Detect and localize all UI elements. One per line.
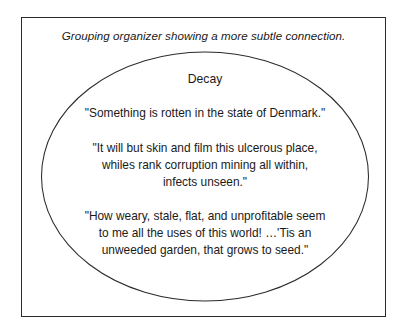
quote-line: "How weary, stale, flat, and unprofitabl… (42, 208, 368, 225)
figure-caption: Grouping organizer showing a more subtle… (21, 26, 386, 46)
quote-line: "Something is rotten in the state of Den… (42, 105, 368, 122)
quote-block-1: "Something is rotten in the state of Den… (42, 105, 368, 122)
quote-line: whiles rank corruption mining all within… (42, 157, 368, 174)
quote-line: infects unseen." (42, 174, 368, 191)
grouping-ellipse-content: Decay "Something is rotten in the state … (42, 53, 368, 300)
quote-line: unweeded garden, that grows to seed." (42, 242, 368, 259)
quote-line: "It will but skin and film this ulcerous… (42, 140, 368, 157)
group-title-decay: Decay (42, 71, 368, 87)
quote-block-3: "How weary, stale, flat, and unprofitabl… (42, 208, 368, 260)
quote-block-2: "It will but skin and film this ulcerous… (42, 140, 368, 192)
figure-root: Grouping organizer showing a more subtle… (0, 0, 403, 333)
quote-line: to me all the uses of this world! …'Tis … (42, 225, 368, 242)
